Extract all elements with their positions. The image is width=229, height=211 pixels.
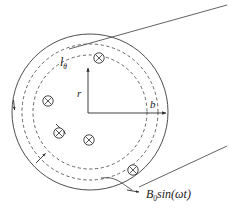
- field-into-page-icon: [54, 128, 64, 138]
- radius-r-label: r: [77, 87, 82, 99]
- tangent-line-upper: [69, 5, 227, 49]
- figure-canvas: lθ r b B0sin(ωt): [0, 0, 229, 211]
- circulation-direction-arrow: [14, 100, 15, 110]
- tangent-line-lower: [139, 146, 227, 187]
- field-marker-group: [43, 53, 138, 175]
- field-into-page-icon: [84, 135, 94, 145]
- physics-figure: lθ r b B0sin(ωt): [0, 0, 229, 211]
- radius-b-label: b: [150, 98, 156, 110]
- dashed-loop-outer: [22, 44, 158, 180]
- field-into-page-icon: [128, 165, 138, 175]
- field-label-rest: sin(ωt): [157, 187, 191, 201]
- outer-boundary-circle: [12, 34, 168, 190]
- field-into-page-icon: [94, 53, 104, 63]
- loop-label: lθ: [60, 55, 67, 71]
- dashed-loop-inner: [33, 55, 147, 169]
- loop-label-subscript: θ: [63, 62, 67, 71]
- field-expression-label: B0sin(ωt): [146, 187, 191, 203]
- field-label-leader-arrow: [127, 190, 139, 192]
- field-into-page-icon: [43, 96, 53, 106]
